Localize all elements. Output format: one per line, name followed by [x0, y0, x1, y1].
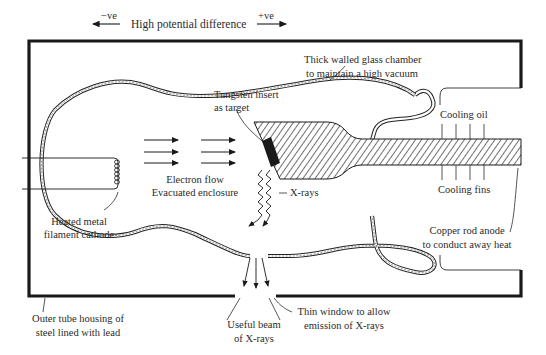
anode-label-2: to conduct away heat — [423, 239, 512, 250]
cathode — [22, 158, 120, 189]
housing-label-1: Outer tube housing of — [32, 313, 124, 324]
electron-flow-label-2: Evacuated enclosure — [152, 187, 239, 198]
filament-coil-icon — [115, 160, 120, 184]
positive-label: +ve — [258, 10, 274, 21]
xray-tube: −ve High potential difference +ve — [0, 0, 546, 355]
negative-label: −ve — [101, 10, 117, 21]
window-label-2: emission of X-rays — [304, 320, 384, 331]
beam-label-1: Useful beam — [227, 319, 280, 330]
glass-chamber-label-1: Thick walled glass chamber — [304, 54, 422, 65]
beam-label-2: of X-rays — [234, 333, 274, 344]
potential-difference-header: −ve High potential difference +ve — [93, 10, 286, 31]
copper-anode — [254, 122, 521, 179]
glass-chamber-label-2: to maintain a high vacuum — [306, 68, 418, 79]
tungsten-label-1: Tungsten insert — [214, 89, 279, 100]
tungsten-label-2: as target — [214, 102, 249, 113]
electron-flow-label-1: Electron flow — [166, 174, 224, 185]
xray-beam — [244, 258, 268, 288]
potential-label: High potential difference — [131, 18, 246, 31]
electron-flow-arrows — [144, 140, 235, 163]
cathode-label-2: filament cathode — [44, 229, 115, 240]
anode-label-1: Copper rod anode — [429, 225, 505, 236]
xrays-label: X-rays — [290, 187, 319, 198]
cooling-oil-label: Cooling oil — [440, 109, 488, 120]
xray-wave-icons — [249, 170, 271, 226]
housing-label-2: steel lined with lead — [36, 327, 121, 338]
cooling-fins-label: Cooling fins — [438, 184, 490, 195]
window-label-1: Thin window to allow — [297, 306, 390, 317]
cathode-label-1: Heated metal — [51, 216, 107, 227]
